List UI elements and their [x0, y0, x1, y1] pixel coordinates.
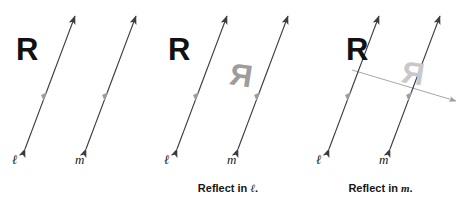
line-label-m: m [379, 152, 388, 168]
line-m [86, 16, 136, 149]
panel-2-diagram [152, 0, 304, 198]
panel-reflect-in-l: R R ℓ m Reflect in ℓ. [152, 0, 304, 198]
panel-original: R ℓ m [0, 0, 152, 198]
line-label-l: ℓ [316, 152, 321, 168]
line-label-m: m [75, 152, 84, 168]
preimage-letter: R [346, 34, 368, 65]
preimage-letter: R [16, 34, 38, 65]
caption-text: Reflect in [348, 182, 398, 194]
panel-3-caption: Reflect in m. [304, 182, 457, 194]
line-label-l: ℓ [164, 152, 169, 168]
preimage-letter: R [168, 34, 190, 65]
line-label-m: m [227, 152, 236, 168]
panel-3-diagram [304, 0, 457, 198]
line-label-l: ℓ [12, 152, 17, 168]
image-letter-reflected: R [400, 56, 427, 90]
panel-2-caption: Reflect in ℓ. [152, 182, 304, 194]
figure-container: R ℓ m R R ℓ m Reflect in ℓ. [0, 0, 457, 198]
caption-line-label: m [401, 182, 410, 194]
panel-reflect-in-m: R R ℓ m Reflect in m. [304, 0, 457, 198]
caption-text: Reflect in [198, 182, 248, 194]
image-letter-reflected: R [228, 58, 255, 92]
panel-1-diagram [0, 0, 152, 198]
